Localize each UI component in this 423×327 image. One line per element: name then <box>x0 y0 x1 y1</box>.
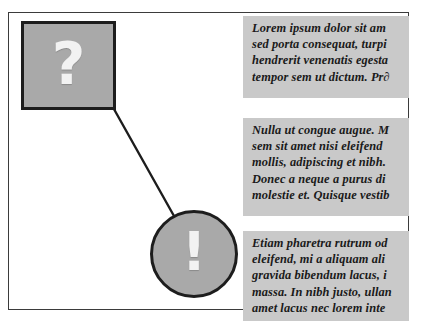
text-line: tempor sem ut dictum. Pr∂ <box>252 69 409 85</box>
exclamation-mark-badge[interactable]: ! <box>150 210 238 298</box>
text-line: eleifend, mi a aliquam ali <box>252 251 409 267</box>
diagram-canvas: ? ! Lorem ipsum dolor sit am sed porta c… <box>0 0 423 327</box>
text-line: amet lacus nec lorem inte <box>252 300 409 316</box>
text-line: Donec a neque a purus di <box>252 171 409 187</box>
exclamation-mark-icon: ! <box>153 213 235 295</box>
text-line: Etiam pharetra rutrum od <box>252 235 409 251</box>
text-line: massa. In nibh justo, ullan <box>252 284 409 300</box>
text-line: Lorem ipsum dolor sit am <box>252 20 409 36</box>
text-line: sed porta consequat, turpi <box>252 36 409 52</box>
text-line: gravida bibendum lacus, i <box>252 267 409 283</box>
text-line: sem sit amet nisi eleifend <box>252 138 409 154</box>
question-mark-panel[interactable]: ? <box>21 21 116 110</box>
question-mark-icon: ? <box>24 24 113 107</box>
text-block: Lorem ipsum dolor sit am sed porta conse… <box>243 16 409 98</box>
text-column: Lorem ipsum dolor sit am sed porta conse… <box>243 16 409 306</box>
text-line: Nulla ut congue augue. M <box>252 122 409 138</box>
text-block: Etiam pharetra rutrum od eleifend, mi a … <box>243 231 409 321</box>
text-line: molestie et. Quisque vestib <box>252 187 409 203</box>
text-block: Nulla ut congue augue. M sem sit amet ni… <box>243 118 409 216</box>
text-line: hendrerit venenatis egesta <box>252 52 409 68</box>
text-line: mollis, adipiscing et nibh. <box>252 154 409 170</box>
